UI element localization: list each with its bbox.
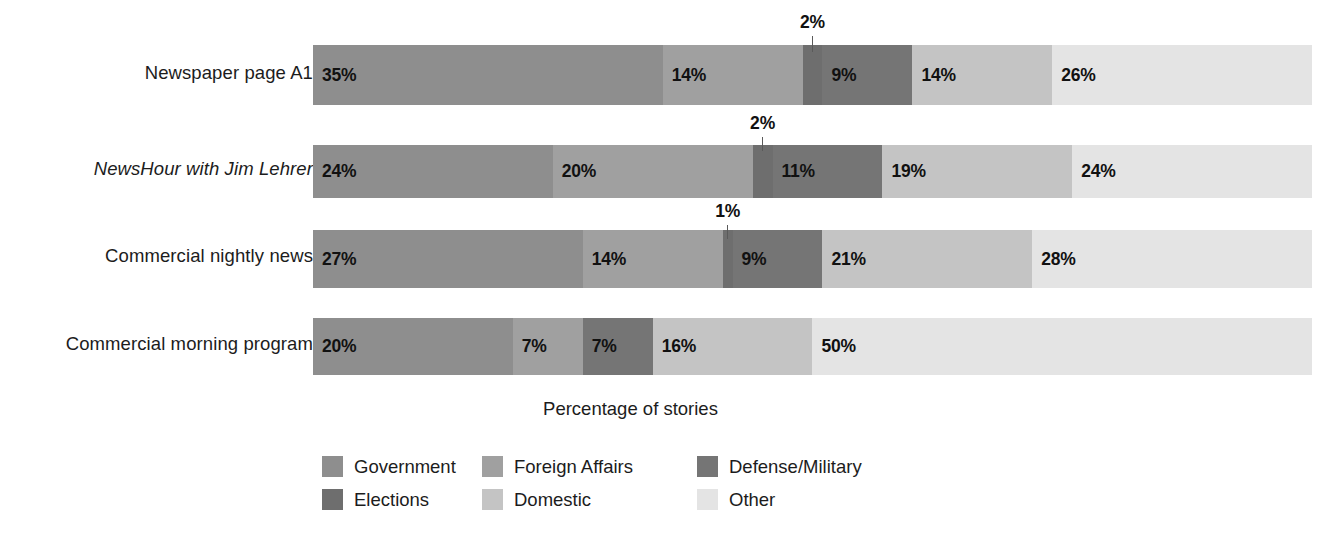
bar-segment-value: 14% bbox=[583, 249, 626, 270]
bar-segment-value: 27% bbox=[313, 249, 356, 270]
bar-segment bbox=[723, 230, 733, 288]
bar-segment-value: 7% bbox=[583, 336, 617, 357]
bar-segment-value: 7% bbox=[513, 336, 547, 357]
bar-segment: 20% bbox=[313, 318, 513, 375]
bar-segment: 50% bbox=[812, 318, 1312, 375]
bar-segment-value: 9% bbox=[733, 249, 767, 270]
legend-label: Domestic bbox=[514, 489, 591, 511]
legend-item: Foreign Affairs bbox=[482, 450, 697, 483]
segment-callout-leader-line bbox=[762, 137, 763, 151]
bar-segment: 16% bbox=[653, 318, 813, 375]
bar-segment-value: 35% bbox=[313, 65, 356, 86]
bar-segment-value: 26% bbox=[1052, 65, 1095, 86]
legend-swatch-icon bbox=[482, 489, 503, 510]
bar-segment bbox=[803, 45, 823, 105]
legend-swatch-icon bbox=[322, 489, 343, 510]
bar-segment: 24% bbox=[1072, 145, 1312, 198]
legend-label: Government bbox=[354, 456, 456, 478]
bar-segment-value: 14% bbox=[912, 65, 955, 86]
legend-item: Domestic bbox=[482, 483, 697, 516]
legend-item: Government bbox=[322, 450, 482, 483]
stacked-bar: 20%7%7%16%50% bbox=[313, 318, 1312, 375]
legend-item: Other bbox=[697, 483, 937, 516]
row-label: NewsHour with Jim Lehrer bbox=[0, 158, 313, 180]
stacked-bar: 24%20%11%19%24% bbox=[313, 145, 1312, 198]
legend-swatch-icon bbox=[697, 489, 718, 510]
bar-segment-value: 20% bbox=[313, 336, 356, 357]
bar-segment-value: 9% bbox=[822, 65, 856, 86]
legend-label: Other bbox=[729, 489, 775, 511]
bar-segment: 7% bbox=[583, 318, 653, 375]
segment-callout-value: 2% bbox=[783, 14, 843, 32]
segment-callout-value: 2% bbox=[733, 115, 793, 133]
bar-segment: 14% bbox=[583, 230, 723, 288]
bar-segment: 35% bbox=[313, 45, 663, 105]
segment-callout-leader-line bbox=[727, 225, 728, 239]
bar-segment-value: 24% bbox=[1072, 161, 1115, 182]
bar-segment: 14% bbox=[663, 45, 803, 105]
legend-label: Foreign Affairs bbox=[514, 456, 633, 478]
legend-row: GovernmentForeign AffairsDefense/Militar… bbox=[322, 450, 1022, 483]
legend-item: Elections bbox=[322, 483, 482, 516]
chart-legend: GovernmentForeign AffairsDefense/Militar… bbox=[322, 450, 1022, 516]
stacked-bar-chart: Newspaper page A135%14%9%14%26%2%NewsHou… bbox=[0, 0, 1333, 550]
bar-segment: 28% bbox=[1032, 230, 1312, 288]
bar-segment-value: 28% bbox=[1032, 249, 1075, 270]
segment-callout: 1% bbox=[698, 203, 758, 239]
bar-segment-value: 21% bbox=[822, 249, 865, 270]
legend-row: ElectionsDomesticOther bbox=[322, 483, 1022, 516]
bar-segment: 9% bbox=[822, 45, 912, 105]
stacked-bar: 35%14%9%14%26% bbox=[313, 45, 1312, 105]
bar-segment: 21% bbox=[822, 230, 1032, 288]
bar-segment: 11% bbox=[773, 145, 883, 198]
bar-segment-value: 16% bbox=[653, 336, 696, 357]
bar-segment-value: 50% bbox=[812, 336, 855, 357]
bar-segment-value: 20% bbox=[553, 161, 596, 182]
bar-segment: 9% bbox=[733, 230, 823, 288]
legend-label: Defense/Military bbox=[729, 456, 862, 478]
bar-segment: 26% bbox=[1052, 45, 1312, 105]
bar-segment: 19% bbox=[882, 145, 1072, 198]
bar-segment: 24% bbox=[313, 145, 553, 198]
bar-segment-value: 11% bbox=[773, 161, 815, 182]
segment-callout-leader-line bbox=[812, 36, 813, 52]
row-label: Commercial nightly news bbox=[0, 245, 313, 267]
stacked-bar: 27%14%9%21%28% bbox=[313, 230, 1312, 288]
segment-callout-value: 1% bbox=[698, 203, 758, 221]
segment-callout: 2% bbox=[783, 14, 843, 52]
bar-segment: 7% bbox=[513, 318, 583, 375]
row-label: Commercial morning program bbox=[0, 333, 313, 355]
legend-item: Defense/Military bbox=[697, 450, 937, 483]
x-axis-caption: Percentage of stories bbox=[0, 398, 1333, 420]
row-label: Newspaper page A1 bbox=[0, 62, 313, 84]
legend-label: Elections bbox=[354, 489, 429, 511]
legend-swatch-icon bbox=[697, 456, 718, 477]
segment-callout: 2% bbox=[733, 115, 793, 151]
legend-swatch-icon bbox=[322, 456, 343, 477]
bar-segment-value: 14% bbox=[663, 65, 706, 86]
bar-segment bbox=[753, 145, 773, 198]
bar-segment-value: 24% bbox=[313, 161, 356, 182]
legend-swatch-icon bbox=[482, 456, 503, 477]
bar-segment-value: 19% bbox=[882, 161, 925, 182]
bar-segment: 14% bbox=[912, 45, 1052, 105]
bar-segment: 20% bbox=[553, 145, 753, 198]
bar-segment: 27% bbox=[313, 230, 583, 288]
